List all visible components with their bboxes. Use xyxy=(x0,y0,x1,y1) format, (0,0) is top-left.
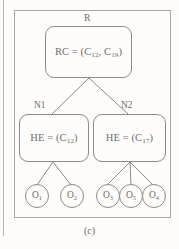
leaf-o2-subscript: 2 xyxy=(74,194,77,201)
figure-panel-c: R N1 N2 RC = (C12, C19) HE = (C12) HE = … xyxy=(0,0,179,249)
root-node-label: R xyxy=(84,14,90,24)
root-mid: , C xyxy=(99,46,112,57)
leaf-node-o5[interactable]: O5 xyxy=(119,184,143,208)
leaf-o1-text: O1 xyxy=(32,191,42,201)
leaf-o5-subscript: 5 xyxy=(133,194,136,201)
leaf-o3-subscript: 3 xyxy=(110,194,113,201)
figure-caption: (c) xyxy=(0,226,179,236)
branch-n1-label: N1 xyxy=(34,101,46,111)
branch-n2-text: HE = (C17) xyxy=(106,133,153,144)
root-node[interactable]: RC = (C12, C19) xyxy=(45,26,132,78)
root-subscript-1: 12 xyxy=(91,51,98,59)
leaf-node-o4[interactable]: O4 xyxy=(142,184,166,208)
branch-node-n2[interactable]: HE = (C17) xyxy=(93,114,166,162)
root-prefix: RC = (C xyxy=(55,46,91,57)
leaf-node-o1[interactable]: O1 xyxy=(25,184,49,208)
branch-n1-text: HE = (C12) xyxy=(30,133,77,144)
branch-n1-prefix: HE = (C xyxy=(30,132,66,143)
adjacent-figure-edge xyxy=(3,0,4,236)
root-suffix: ) xyxy=(119,46,123,57)
branch-n2-subscript: 17 xyxy=(142,137,149,145)
leaf-node-o2[interactable]: O2 xyxy=(60,184,84,208)
leaf-o3-prefix: O xyxy=(103,190,110,200)
branch-n1-subscript: 12 xyxy=(67,137,74,145)
branch-n2-prefix: HE = (C xyxy=(106,132,142,143)
branch-n1-suffix: ) xyxy=(74,132,78,143)
leaf-o3-text: O3 xyxy=(103,191,113,201)
leaf-o1-prefix: O xyxy=(32,190,39,200)
leaf-o2-prefix: O xyxy=(67,190,74,200)
branch-n2-suffix: ) xyxy=(150,132,154,143)
leaf-o5-prefix: O xyxy=(126,190,133,200)
leaf-o1-subscript: 1 xyxy=(39,194,42,201)
leaf-o4-text: O4 xyxy=(149,191,159,201)
leaf-o2-text: O2 xyxy=(67,191,77,201)
leaf-o4-subscript: 4 xyxy=(156,194,159,201)
leaf-o5-text: O5 xyxy=(126,191,136,201)
leaf-o4-prefix: O xyxy=(149,190,156,200)
leaf-node-o3[interactable]: O3 xyxy=(96,184,120,208)
root-subscript-2: 19 xyxy=(111,51,118,59)
branch-node-n1[interactable]: HE = (C12) xyxy=(19,114,89,162)
branch-n2-label: N2 xyxy=(121,101,133,111)
root-node-text: RC = (C12, C19) xyxy=(55,47,122,58)
